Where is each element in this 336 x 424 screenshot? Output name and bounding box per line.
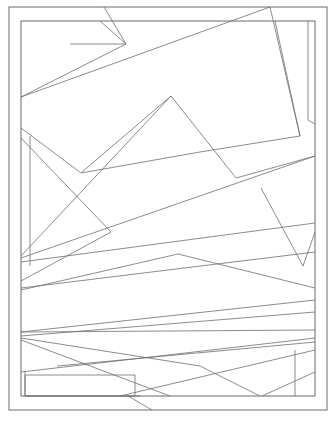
page-background: [0, 0, 336, 424]
geometric-line-art: [0, 0, 336, 424]
artboard: [0, 0, 336, 424]
